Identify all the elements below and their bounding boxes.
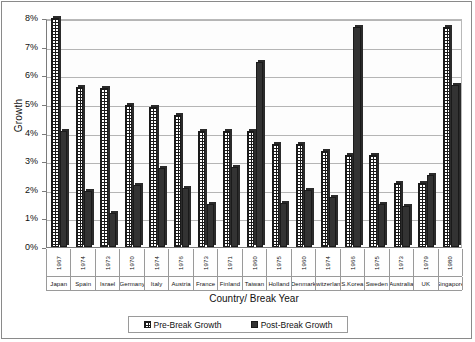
break-year-label: 1979 <box>423 256 429 270</box>
bar-pre-austria <box>174 115 181 247</box>
break-year-label: 1975 <box>374 256 380 270</box>
country-cell: Holland <box>267 277 291 290</box>
legend-swatch-post <box>251 321 258 328</box>
bar-group <box>47 20 71 247</box>
break-year-cell: 1980 <box>439 249 463 276</box>
bar-pre-skorea <box>345 155 352 247</box>
y-axis-tick-label: 0% <box>4 242 38 252</box>
bar-pre-uk <box>418 183 425 247</box>
country-label: UK <box>422 281 431 287</box>
break-year-label: 1974 <box>80 256 86 270</box>
country-label: Austria <box>171 281 190 287</box>
bar-face <box>182 188 189 247</box>
country-cell: Australia <box>390 277 414 290</box>
country-cell: Taiwan <box>243 277 267 290</box>
y-axis-title: Growth <box>13 76 24 156</box>
break-year-label: 1973 <box>203 256 209 270</box>
bar-group <box>439 20 463 247</box>
bar-post-italy <box>158 168 165 247</box>
break-year-cell: 1966 <box>341 249 365 276</box>
country-cell: UK <box>414 277 438 290</box>
legend-item[interactable]: Pre-Break Growth <box>144 320 222 330</box>
bar-post-germany <box>133 185 140 247</box>
y-axis-tick-label: 5% <box>4 99 38 109</box>
bar-face <box>329 197 336 247</box>
bar-group <box>390 20 414 247</box>
bar-face <box>402 206 409 248</box>
bar-group <box>243 20 267 247</box>
bar-pre-denmark <box>296 144 303 247</box>
bar-face <box>394 183 401 247</box>
country-label: France <box>196 281 215 287</box>
bar-pre-australia <box>394 183 401 247</box>
break-year-cell: 1974 <box>145 249 169 276</box>
country-label: Denmark <box>292 281 316 287</box>
bar-face <box>76 87 83 247</box>
bar-face <box>133 185 140 247</box>
break-year-label: 1974 <box>325 256 331 270</box>
bar-face <box>304 190 311 247</box>
break-year-label: 1980 <box>447 256 453 270</box>
bar-face <box>451 85 458 247</box>
bar-pre-israel <box>100 88 107 247</box>
bar-face <box>296 144 303 247</box>
y-axis-tick-label: 4% <box>4 128 38 138</box>
break-year-cell: 1960 <box>243 249 267 276</box>
bar-face <box>418 183 425 247</box>
break-year-cell: 1960 <box>292 249 316 276</box>
break-year-cell: 1967 <box>47 249 71 276</box>
bar-post-spain <box>84 191 91 247</box>
break-year-label: 1974 <box>154 256 160 270</box>
bar-pre-singapore <box>443 27 450 247</box>
bar-group <box>292 20 316 247</box>
bar-pre-spain <box>76 87 83 247</box>
bar-face <box>321 151 328 247</box>
bar-post-holland <box>280 203 287 247</box>
y-axis-tick-label: 3% <box>4 156 38 166</box>
bar-group <box>145 20 169 247</box>
bar-post-australia <box>402 206 409 248</box>
y-axis-tick-label: 8% <box>4 13 38 23</box>
bar-pre-germany <box>125 105 132 247</box>
break-year-label: 1975 <box>276 256 282 270</box>
bar-post-japan <box>60 131 67 247</box>
break-year-label: 1960 <box>300 256 306 270</box>
chart-legend: Pre-Break GrowthPost-Break Growth <box>128 316 348 333</box>
bar-pre-sweden <box>369 155 376 247</box>
bar-face <box>125 105 132 247</box>
bar-pre-holland <box>272 144 279 247</box>
legend-item[interactable]: Post-Break Growth <box>251 320 333 330</box>
break-year-label: 1970 <box>129 256 135 270</box>
break-year-cell: 1974 <box>71 249 95 276</box>
bar-series-container <box>47 20 461 247</box>
bar-face <box>256 62 263 247</box>
country-label: S.Korea <box>341 281 363 287</box>
x-axis-title: Country/ Break Year <box>46 293 462 304</box>
break-year-cell: 1975 <box>365 249 389 276</box>
bar-pre-taiwan <box>247 131 254 247</box>
bar-face <box>109 213 116 247</box>
country-cell: S.Korea <box>341 277 365 290</box>
break-year-cell: 1975 <box>267 249 291 276</box>
x-axis-country-row: JapanSpainIsraelGermanyItalyAustriaFranc… <box>46 277 462 291</box>
break-year-label: 1976 <box>178 256 184 270</box>
bar-face <box>443 27 450 247</box>
bar-face <box>378 204 385 247</box>
bar-face <box>100 88 107 247</box>
bar-face <box>353 27 360 247</box>
bar-face <box>174 115 181 247</box>
bar-group <box>120 20 144 247</box>
bar-post-france <box>207 204 214 247</box>
legend-label: Pre-Break Growth <box>154 320 222 330</box>
bar-face <box>223 131 230 247</box>
bar-group <box>365 20 389 247</box>
country-cell: Austria <box>169 277 193 290</box>
country-cell: Israel <box>96 277 120 290</box>
break-year-cell: 1970 <box>120 249 144 276</box>
bar-face <box>60 131 67 247</box>
country-label: Holland <box>268 281 289 287</box>
country-cell: France <box>194 277 218 290</box>
bar-pre-switzerland <box>321 151 328 247</box>
break-year-cell: 1973 <box>96 249 120 276</box>
bar-group <box>414 20 438 247</box>
